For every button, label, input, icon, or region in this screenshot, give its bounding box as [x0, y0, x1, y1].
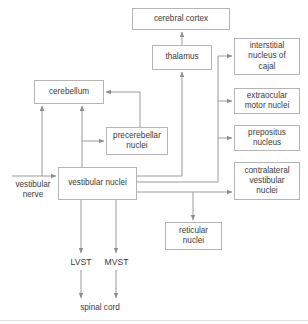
node-cerebral-cortex[interactable]: cerebral cortex — [132, 8, 230, 30]
node-cerebellum[interactable]: cerebellum — [34, 80, 104, 104]
vestibular-pathway-diagram: cerebral cortex thalamus interstitial nu… — [0, 0, 308, 324]
node-reticular-nuclei[interactable]: reticular nuclei — [165, 222, 222, 250]
edge-vestibular-nuclei-to-thalamus — [137, 72, 182, 176]
edge-precerebellar-nuclei-to-cerebellum — [106, 92, 140, 127]
label-spinal-cord: spinal cord — [69, 303, 131, 313]
node-vestibular-nuclei[interactable]: vestibular nuclei — [58, 167, 137, 200]
node-interstitial-nucleus-of-cajal[interactable]: interstitial nucleus of cajal — [234, 38, 300, 75]
node-extraocular-motor-nuclei[interactable]: extraocular motor nuclei — [234, 88, 300, 114]
node-contralateral-vestibular-nuclei[interactable]: contralateral vestibular nuclei — [234, 162, 300, 200]
node-thalamus[interactable]: thalamus — [152, 45, 212, 70]
label-vestibular-nerve: vestibular nerve — [7, 180, 59, 200]
label-lvst: LVST — [66, 257, 96, 267]
footer-divider — [0, 320, 308, 321]
node-precerebellar-nuclei[interactable]: precerebellar nuclei — [106, 127, 168, 155]
node-prepositus-nucleus[interactable]: prepositus nucleus — [234, 125, 300, 151]
edge-vestibular-nuclei-to-interstitial-nucleus-of-cajal — [137, 56, 232, 182]
label-mvst: MVST — [100, 257, 133, 267]
